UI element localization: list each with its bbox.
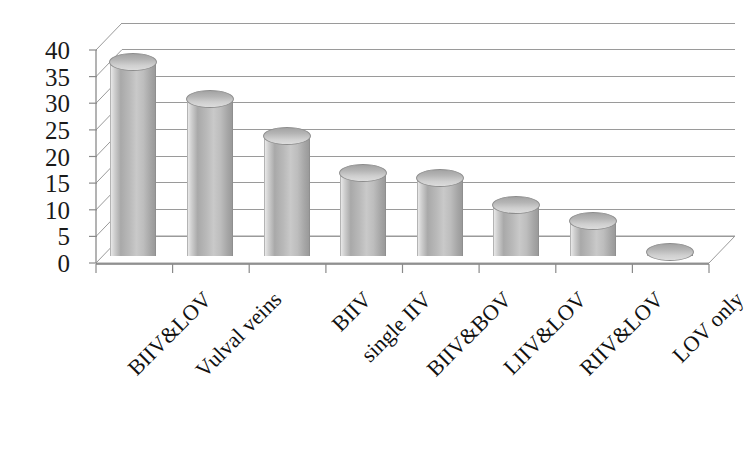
x-tick-label-biiv-lov: BIIV&LOV [87,288,216,417]
